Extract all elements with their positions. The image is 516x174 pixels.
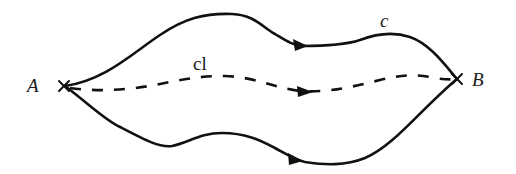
label-point-b: B xyxy=(472,69,484,90)
label-curve-cl: cl xyxy=(193,53,207,74)
upper-arrow-icon xyxy=(293,39,308,51)
lower-arrow-icon xyxy=(288,153,303,165)
middle-arrow-icon xyxy=(297,86,313,97)
point-b-marker-icon xyxy=(452,74,462,84)
path-diagram: A B c cl xyxy=(0,0,516,174)
lower-curve xyxy=(65,79,457,164)
label-point-a: A xyxy=(25,75,39,96)
middle-curve-cl xyxy=(70,75,457,91)
label-curve-c: c xyxy=(380,10,389,31)
